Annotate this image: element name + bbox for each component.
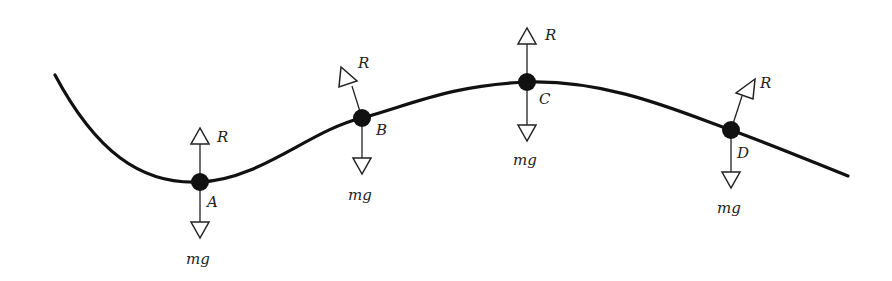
particle-d (722, 121, 740, 139)
particle-c (518, 73, 536, 91)
reaction-arrow-b (339, 67, 357, 87)
point-label-b: B (375, 121, 387, 139)
point-label-c: C (539, 90, 551, 108)
weight-arrow-a (191, 222, 209, 238)
point-label-d: D (736, 144, 749, 162)
weight-arrow-c (518, 125, 536, 141)
weight-label-b: mg (348, 186, 372, 204)
reaction-arrow-d (736, 79, 755, 99)
point-label-a: A (205, 193, 218, 211)
reaction-arrow-a (191, 128, 209, 144)
weight-arrow-b (353, 158, 371, 174)
point-a: R A mg (186, 128, 228, 268)
reaction-label-d: R (759, 74, 771, 92)
track-diagram: R A mg R B mg R C mg R D mg (0, 0, 892, 281)
particle-a (191, 173, 209, 191)
weight-label-c: mg (513, 151, 537, 169)
point-b: R B mg (339, 54, 387, 204)
reaction-arrow-c (518, 28, 536, 44)
point-c: R C mg (513, 26, 556, 169)
weight-label-d: mg (717, 199, 741, 217)
reaction-label-a: R (216, 128, 228, 146)
particle-b (353, 109, 371, 127)
reaction-label-b: R (357, 54, 369, 72)
weight-arrow-d (722, 172, 740, 188)
reaction-label-c: R (544, 26, 556, 44)
weight-label-a: mg (186, 250, 210, 268)
point-d: R D mg (717, 74, 771, 217)
